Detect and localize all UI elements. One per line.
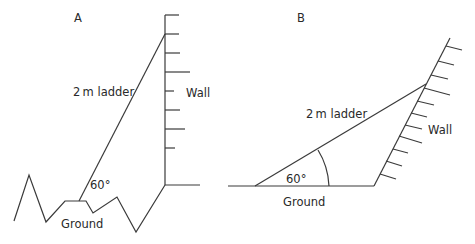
- wall-tick: [446, 46, 462, 50]
- wall-tick: [399, 136, 422, 143]
- wall-tick: [431, 75, 448, 79]
- wall-tick: [405, 125, 422, 129]
- wall-tick: [386, 161, 402, 166]
- panel-a-ladder-label: 2 m ladder: [73, 85, 134, 99]
- wall-tick: [411, 113, 427, 117]
- panel-b-ladder-label: 2 m ladder: [306, 107, 367, 121]
- panel-b-angle-label: 60°: [286, 172, 306, 186]
- panel-b-wall: [374, 38, 450, 186]
- panel-b-angle-arc: [318, 150, 329, 186]
- ladder-diagram: A 2 m ladder Wall 60° Ground B: [0, 0, 475, 244]
- panel-a-ground-label: Ground: [61, 217, 103, 231]
- wall-tick: [424, 88, 450, 95]
- panel-b-wall-ticks: [380, 46, 462, 179]
- panel-a-wall-label: Wall: [186, 86, 210, 100]
- panel-a-wall-ticks: [165, 15, 200, 185]
- panel-b: B 2 m ladder Wall 60° Ground: [228, 11, 462, 209]
- panel-b-wall-label: Wall: [428, 123, 452, 137]
- panel-a-ladder: [79, 34, 165, 201]
- wall-tick: [417, 101, 434, 105]
- wall-tick: [438, 61, 454, 65]
- panel-a: A 2 m ladder Wall 60° Ground: [14, 11, 210, 232]
- panel-a-label: A: [74, 11, 82, 25]
- wall-tick: [380, 174, 396, 179]
- panel-b-label: B: [297, 11, 305, 25]
- panel-b-ground-label: Ground: [283, 195, 325, 209]
- panel-a-angle-label: 60°: [90, 178, 110, 192]
- wall-tick: [393, 149, 408, 153]
